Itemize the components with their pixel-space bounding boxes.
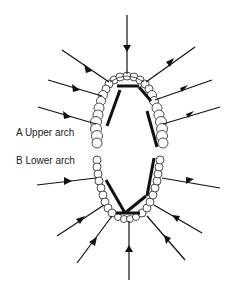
upper-arch-label: A Upper arch <box>16 127 74 138</box>
upper-arrows <box>38 15 220 124</box>
arrowhead-icon <box>84 64 92 73</box>
lower-arch-label: B Lower arch <box>16 155 75 166</box>
arrowhead-icon <box>125 245 133 252</box>
arrowhead-icon <box>72 84 80 92</box>
lower-arrows <box>37 177 220 280</box>
upper-arrow-right-3 <box>163 107 220 124</box>
arrowhead-icon <box>63 111 71 119</box>
arch-diagram <box>0 0 233 291</box>
upper-teeth <box>91 72 169 148</box>
arrowhead-icon <box>64 177 72 185</box>
upper-bar-left <box>107 90 120 126</box>
arrowhead-icon <box>172 215 180 222</box>
arrowhead-icon <box>123 45 131 52</box>
lower-arch <box>37 156 220 280</box>
